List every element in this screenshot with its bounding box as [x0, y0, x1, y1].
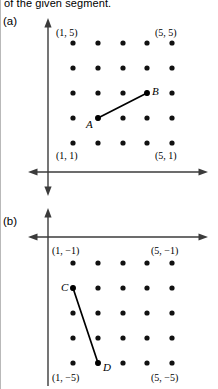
lattice-dot — [144, 260, 149, 265]
lattice-dot — [144, 360, 149, 365]
lattice-dot — [120, 260, 125, 265]
lattice-dot — [169, 65, 174, 70]
lattice-dot — [95, 335, 100, 340]
lattice-dot — [169, 40, 174, 45]
panel-b-label-bottom-right: (5, −5) — [151, 372, 178, 383]
lattice-dot — [95, 310, 100, 315]
lattice-dot — [95, 260, 100, 265]
lattice-dot — [144, 140, 149, 145]
panel-a-y-axis — [44, 18, 51, 196]
lattice-dot — [120, 90, 125, 95]
segment-endpoint-b — [144, 90, 150, 96]
lattice-dot — [144, 285, 149, 290]
lattice-dot — [70, 335, 75, 340]
segment-cd — [70, 285, 101, 366]
panel-b-y-axis — [44, 208, 51, 386]
lattice-dot — [95, 40, 100, 45]
point-label-b: B — [152, 86, 159, 97]
panel-b-label-top-left: (1, −1) — [52, 245, 79, 256]
point-label-a: A — [86, 119, 93, 130]
panel-b-lattice — [70, 260, 174, 365]
segment-endpoint-a — [95, 115, 101, 121]
lattice-dot — [120, 65, 125, 70]
lattice-dot — [169, 260, 174, 265]
lattice-dot — [95, 140, 100, 145]
lattice-dot — [169, 335, 174, 340]
lattice-dot — [120, 310, 125, 315]
panel-a-label-bottom-right: (5, 1) — [155, 150, 177, 161]
lattice-dot — [169, 140, 174, 145]
lattice-dot — [95, 285, 100, 290]
lattice-dot — [144, 310, 149, 315]
lattice-dot — [120, 115, 125, 120]
lattice-dot — [144, 335, 149, 340]
lattice-dot — [120, 40, 125, 45]
lattice-dot — [70, 360, 75, 365]
lattice-dot — [169, 115, 174, 120]
lattice-dot — [70, 260, 75, 265]
panel-b-label-top-right: (5, −1) — [151, 245, 178, 256]
lattice-dot — [70, 40, 75, 45]
lattice-dot — [70, 90, 75, 95]
panel-a-label-top-right: (5, 5) — [155, 27, 177, 38]
lattice-dot — [70, 140, 75, 145]
lattice-dot — [70, 310, 75, 315]
point-label-d: D — [103, 362, 111, 373]
panel-a-label-bottom-left: (1, 1) — [56, 150, 78, 161]
figure-root: of the given segment. (a) — [0, 0, 218, 389]
lattice-dot — [120, 285, 125, 290]
lattice-dot — [144, 115, 149, 120]
lattice-dot — [144, 40, 149, 45]
lattice-dot — [120, 140, 125, 145]
lattice-dot — [169, 285, 174, 290]
lattice-dot — [70, 65, 75, 70]
lattice-dot — [169, 90, 174, 95]
panel-b-x-axis — [28, 233, 208, 240]
panel-b-plot — [0, 194, 218, 389]
lattice-dot — [95, 65, 100, 70]
segment-endpoint-d — [95, 360, 101, 366]
lattice-dot — [70, 115, 75, 120]
lattice-dot — [169, 310, 174, 315]
point-label-c: C — [61, 282, 68, 293]
panel-a-label-top-left: (1, 5) — [56, 27, 78, 38]
lattice-dot — [120, 335, 125, 340]
lattice-dot — [144, 65, 149, 70]
panel-a-x-axis — [28, 168, 208, 175]
lattice-dot — [95, 90, 100, 95]
segment-endpoint-c — [70, 285, 76, 291]
panel-a-plot — [0, 0, 218, 200]
panel-b-label-bottom-left: (1, −5) — [52, 372, 79, 383]
lattice-dot — [120, 360, 125, 365]
lattice-dot — [169, 360, 174, 365]
